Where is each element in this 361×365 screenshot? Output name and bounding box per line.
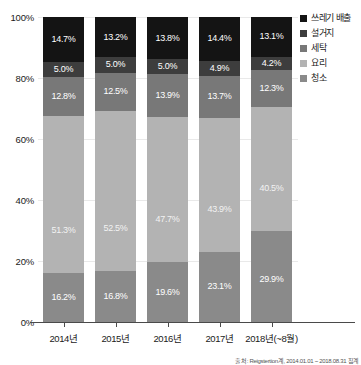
bar-segment[interactable]: 43.9% <box>199 118 240 252</box>
bar-segment-value-label: 12.8% <box>51 92 75 101</box>
bar-segment-value-label: 5.0% <box>106 60 125 69</box>
x-axis-tick <box>220 322 221 327</box>
bar-stack[interactable]: 13.1%4.2%12.3%40.5%29.9% <box>251 17 292 322</box>
bar-segment-value-label: 5.0% <box>54 65 73 74</box>
legend-swatch-icon <box>300 15 307 22</box>
bar-segment[interactable]: 5.0% <box>95 57 136 72</box>
legend-label: 쓰레기 배출 <box>311 14 351 23</box>
y-axis-tick-label: 100% <box>11 12 35 23</box>
legend-item[interactable]: 요리 <box>300 57 361 70</box>
bar-segment-value-label: 13.7% <box>207 92 231 101</box>
legend-swatch-icon <box>300 60 307 67</box>
x-axis-tick <box>168 322 169 327</box>
x-axis-tick-label: 2017년 <box>205 331 233 345</box>
bar-segment[interactable]: 5.0% <box>147 59 188 74</box>
y-axis-tick-label: 80% <box>16 73 34 84</box>
bar-segment-value-label: 12.5% <box>103 87 127 96</box>
bar-segment-value-label: 4.9% <box>210 64 229 73</box>
x-axis-tick <box>64 322 65 327</box>
x-axis-tick-label: 2015년 <box>101 331 129 345</box>
y-axis-tick-label: 60% <box>16 134 34 145</box>
bar-segment-value-label: 13.2% <box>103 33 127 42</box>
bar-segment[interactable]: 12.8% <box>43 77 84 116</box>
bar-segment-value-label: 52.5% <box>103 224 127 233</box>
bar-segment-value-label: 19.6% <box>155 288 179 297</box>
x-axis-tick-label: 2014년 <box>49 331 77 345</box>
bar-stack[interactable]: 14.7%5.0%12.8%51.3%16.2% <box>43 17 84 322</box>
bar-segment[interactable]: 4.9% <box>199 61 240 76</box>
bar-segment[interactable]: 5.0% <box>43 62 84 77</box>
bar-segment-value-label: 16.8% <box>103 292 127 301</box>
bar-segment[interactable]: 14.4% <box>199 17 240 61</box>
legend-label: 세탁 <box>311 44 326 53</box>
bar-segment-value-label: 29.9% <box>259 275 283 284</box>
bar-segment-value-label: 43.9% <box>207 205 231 214</box>
legend-swatch-icon <box>300 30 307 37</box>
legend-item[interactable]: 청소 <box>300 72 361 85</box>
legend-item[interactable]: 설거지 <box>300 27 361 40</box>
bar-segment-value-label: 14.7% <box>51 35 75 44</box>
bar-segment[interactable]: 16.8% <box>95 271 136 322</box>
bar-segment[interactable]: 29.9% <box>251 231 292 322</box>
x-axis-tick <box>116 322 117 327</box>
stacked-bar-chart: 0%20%40%60%80%100% 14.7%5.0%12.8%51.3%16… <box>0 0 361 365</box>
plot-area: 14.7%5.0%12.8%51.3%16.2%13.2%5.0%12.5%52… <box>38 17 298 322</box>
bar-segment[interactable]: 13.2% <box>95 17 136 57</box>
legend-swatch-icon <box>300 45 307 52</box>
x-axis-tick-label: 2016년 <box>153 331 181 345</box>
bar-segment-value-label: 5.0% <box>158 62 177 71</box>
bar-stack[interactable]: 13.2%5.0%12.5%52.5%16.8% <box>95 17 136 322</box>
bar-segment[interactable]: 14.7% <box>43 17 84 62</box>
bar-segment[interactable]: 16.2% <box>43 273 84 322</box>
bar-segment-value-label: 14.4% <box>207 34 231 43</box>
x-axis-tick <box>272 322 273 327</box>
y-axis: 0%20%40%60%80%100% <box>0 0 38 365</box>
bar-segment[interactable]: 4.2% <box>251 57 292 70</box>
bar-segment-value-label: 40.5% <box>259 184 283 193</box>
bar-stack[interactable]: 14.4%4.9%13.7%43.9%23.1% <box>199 17 240 322</box>
bar-segment[interactable]: 13.9% <box>147 74 188 116</box>
y-axis-tick-label: 40% <box>16 195 34 206</box>
legend-item[interactable]: 쓰레기 배출 <box>300 12 361 25</box>
bar-segment-value-label: 47.7% <box>155 215 179 224</box>
bar-segment[interactable]: 40.5% <box>251 107 292 231</box>
bar-segment[interactable]: 12.3% <box>251 70 292 108</box>
x-axis-line <box>30 322 355 323</box>
legend-item[interactable]: 세탁 <box>300 42 361 55</box>
x-axis-tick-label: 2018년(~8월) <box>245 331 297 345</box>
bar-segment-value-label: 51.3% <box>51 226 75 235</box>
legend-swatch-icon <box>300 75 307 82</box>
bar-segment[interactable]: 23.1% <box>199 252 240 322</box>
bar-segment[interactable]: 13.1% <box>251 17 292 57</box>
legend-label: 요리 <box>311 59 326 68</box>
bar-stack[interactable]: 13.8%5.0%13.9%47.7%19.6% <box>147 17 188 322</box>
bar-segment-value-label: 16.2% <box>51 293 75 302</box>
bar-segment[interactable]: 47.7% <box>147 117 188 262</box>
bar-segment-value-label: 12.3% <box>259 84 283 93</box>
legend-label: 청소 <box>311 74 326 83</box>
bar-segment[interactable]: 13.7% <box>199 76 240 118</box>
y-axis-tick-label: 20% <box>16 256 34 267</box>
bar-segment-value-label: 23.1% <box>207 282 231 291</box>
bar-segment-value-label: 13.1% <box>259 32 283 41</box>
bar-segment-value-label: 13.8% <box>155 34 179 43</box>
bar-segment-value-label: 4.2% <box>262 59 281 68</box>
source-note: 출처: Reigstertion계, 2014.01.01 ~ 2018.08.… <box>235 356 359 365</box>
bar-segment[interactable]: 13.8% <box>147 17 188 59</box>
bar-segment[interactable]: 19.6% <box>147 262 188 322</box>
bar-segment[interactable]: 51.3% <box>43 116 84 272</box>
chart-legend: 쓰레기 배출설거지세탁요리청소 <box>300 12 361 87</box>
bar-segment-value-label: 13.9% <box>155 91 179 100</box>
bar-segment[interactable]: 12.5% <box>95 73 136 111</box>
bar-segment[interactable]: 52.5% <box>95 111 136 271</box>
legend-label: 설거지 <box>311 29 334 38</box>
